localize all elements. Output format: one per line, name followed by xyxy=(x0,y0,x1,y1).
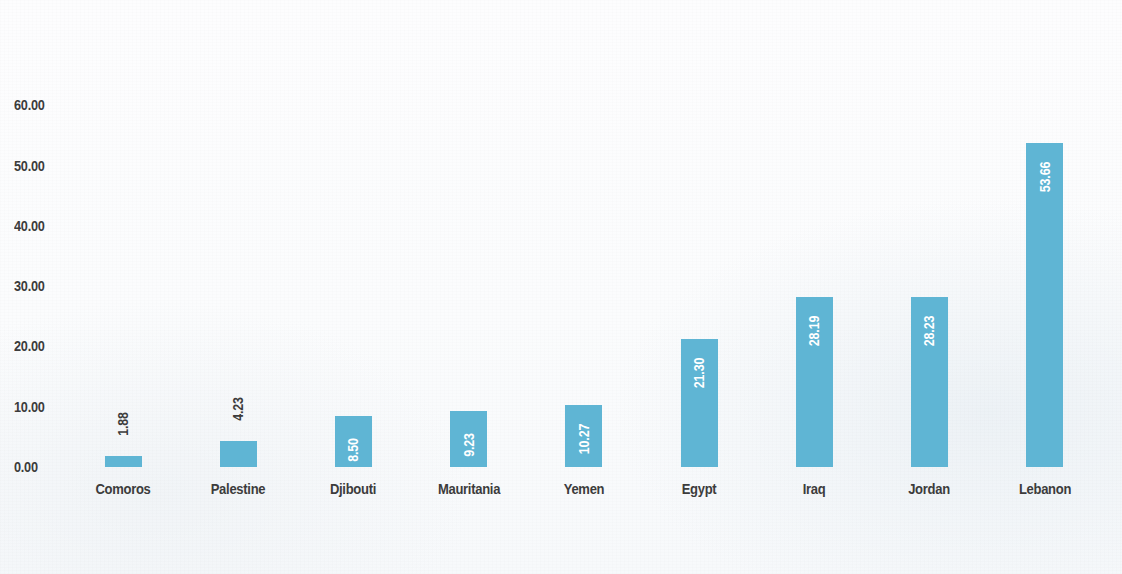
y-axis-tick-label: 50.00 xyxy=(14,157,80,175)
y-axis-tick-label: 10.00 xyxy=(14,398,80,416)
bar-value-label: 1.88 xyxy=(114,400,132,448)
x-axis-tick-label: Djibouti xyxy=(290,480,416,498)
x-axis-tick-label: Mauritania xyxy=(406,480,532,498)
bar[interactable] xyxy=(105,456,142,467)
bar-value-label: 4.23 xyxy=(229,385,247,433)
bar-chart: 0.0010.0020.0030.0040.0050.0060.001.88Co… xyxy=(0,0,1122,574)
x-axis-tick-label: Palestine xyxy=(175,480,301,498)
x-axis-tick-label: Jordan xyxy=(866,480,992,498)
x-axis-tick-label: Egypt xyxy=(636,480,762,498)
bar-value-label: 28.23 xyxy=(920,307,938,355)
y-axis-tick-label: 30.00 xyxy=(14,277,80,295)
bar-value-label: 9.23 xyxy=(460,421,478,469)
bar-value-label: 10.27 xyxy=(575,415,593,463)
bar-value-label: 8.50 xyxy=(344,426,362,474)
x-axis-tick-label: Iraq xyxy=(751,480,877,498)
bar-value-label: 28.19 xyxy=(805,307,823,355)
y-axis-tick-label: 20.00 xyxy=(14,337,80,355)
bar-value-label: 53.66 xyxy=(1036,153,1054,201)
x-axis-tick-label: Comoros xyxy=(60,480,186,498)
y-axis-tick-label: 40.00 xyxy=(14,217,80,235)
plot-area: 0.0010.0020.0030.0040.0050.0060.001.88Co… xyxy=(0,0,1122,574)
x-axis-tick-label: Lebanon xyxy=(982,480,1108,498)
y-axis-tick-label: 0.00 xyxy=(14,458,80,476)
bar[interactable] xyxy=(220,441,257,467)
bar-value-label: 21.30 xyxy=(690,348,708,396)
y-axis-tick-label: 60.00 xyxy=(14,96,80,114)
x-axis-tick-label: Yemen xyxy=(521,480,647,498)
